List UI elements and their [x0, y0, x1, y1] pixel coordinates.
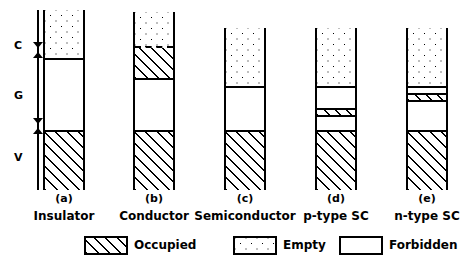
legend-label-empty: Empty	[283, 238, 326, 252]
band-e-gap-forbidden-upper	[408, 86, 446, 93]
band-column-b[interactable]	[133, 12, 175, 190]
legend-item-forbidden: Forbidden	[339, 234, 457, 256]
band-column-d[interactable]	[315, 28, 357, 190]
band-column-a[interactable]	[43, 10, 85, 190]
axis-arrow-c-down	[33, 42, 43, 48]
axis-label-c: C	[14, 40, 23, 51]
legend-label-forbidden: Forbidden	[389, 238, 457, 252]
band-c-valence-occupied	[226, 130, 264, 190]
band-c-conduction-empty	[226, 28, 264, 86]
band-column-b-name: Conductor	[108, 210, 200, 222]
band-d-gap-forbidden-upper	[317, 86, 355, 108]
band-column-b-outline	[133, 12, 175, 190]
band-column-c-tag: (c)	[224, 193, 266, 204]
band-column-d-name: p-type SC	[291, 210, 381, 222]
band-a-valence-occupied	[45, 130, 83, 190]
axis-label-v: V	[14, 152, 23, 163]
band-column-d-tag: (d)	[315, 193, 357, 204]
band-a-gap-forbidden	[45, 58, 83, 130]
band-b-gap-forbidden	[135, 78, 173, 130]
band-column-a-name: Insulator	[13, 210, 115, 222]
band-column-e[interactable]	[406, 28, 448, 190]
band-b-valence-occupied	[135, 130, 173, 190]
legend-item-occupied: Occupied	[84, 234, 196, 256]
band-column-b-tag: (b)	[133, 193, 175, 204]
band-d-gap-forbidden-lower	[317, 117, 355, 130]
band-column-c[interactable]	[224, 28, 266, 190]
legend-item-empty: Empty	[233, 234, 326, 256]
band-d-conduction-empty	[317, 28, 355, 86]
band-column-c-name: Semiconductor	[190, 210, 300, 222]
band-column-a-tag: (a)	[43, 193, 85, 204]
band-e-gap-forbidden-lower	[408, 102, 446, 130]
band-column-e-tag: (e)	[406, 193, 448, 204]
band-column-e-name: n-type SC	[382, 210, 472, 222]
axis-arrow-g-down	[33, 118, 43, 124]
legend-swatch-forbidden	[339, 236, 383, 255]
band-b-conduction-occupied	[135, 46, 173, 78]
band-c-gap-forbidden	[226, 86, 264, 130]
axis-line	[37, 10, 39, 190]
band-e-conduction-empty	[408, 28, 446, 86]
band-a-conduction-empty	[45, 10, 83, 58]
band-e-donor-level	[408, 93, 446, 102]
band-column-a-outline	[43, 10, 85, 190]
band-d-acceptor-level	[317, 108, 355, 117]
band-column-e-outline	[406, 28, 448, 190]
band-e-valence-occupied	[408, 130, 446, 190]
band-d-valence-occupied	[317, 130, 355, 190]
band-diagram-figure: C G V (a) Insulator (b) Conductor (c) Se…	[0, 0, 476, 265]
axis-arrow-g-up	[33, 52, 43, 58]
band-column-c-outline	[224, 28, 266, 190]
band-column-d-outline	[315, 28, 357, 190]
legend-label-occupied: Occupied	[134, 238, 196, 252]
axis-arrow-v-up	[33, 128, 43, 134]
legend-swatch-empty	[233, 236, 277, 255]
legend-swatch-occupied	[84, 236, 128, 255]
axis-label-g: G	[14, 90, 24, 101]
band-b-conduction-empty	[135, 12, 173, 46]
